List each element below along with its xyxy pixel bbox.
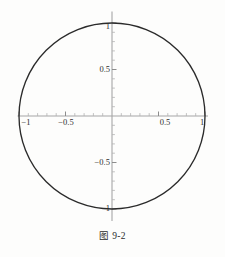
y-tick-label-neg1: −1: [101, 204, 110, 213]
x-tick-label-neg0-5: −0.5: [58, 118, 73, 127]
plot-area: −1 −0.5 0.5 1 1 0.5 −0.5 −1: [0, 0, 225, 228]
x-tick-label-0-5: 0.5: [160, 118, 171, 127]
figure-container: −1 −0.5 0.5 1 1 0.5 −0.5 −1 图 9-2: [0, 0, 225, 257]
y-tick-label-1: 1: [106, 22, 110, 31]
y-tick-label-0-5: 0.5: [99, 65, 110, 74]
x-tick-label-neg1: −1: [21, 118, 30, 127]
unit-circle-plot: [0, 0, 225, 228]
figure-caption: 图 9-2: [0, 231, 225, 242]
x-tick-label-1: 1: [200, 118, 204, 127]
y-tick-label-neg0-5: −0.5: [95, 158, 110, 167]
